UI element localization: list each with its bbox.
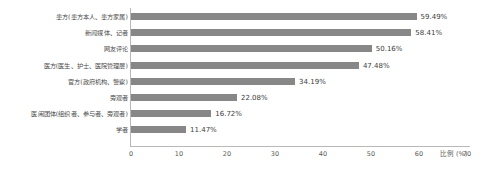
bar-track: 47.48%	[131, 58, 486, 74]
x-axis-line	[130, 146, 470, 147]
bar	[131, 110, 211, 117]
x-tick-label: 50	[367, 150, 375, 159]
bar	[131, 126, 186, 133]
chart-row: 医闹团体(组织者、参与者、旁观者)16.72%	[0, 106, 486, 122]
bar-track: 34.19%	[131, 74, 486, 90]
bar-track: 50.16%	[131, 41, 486, 57]
bar-track: 22.08%	[131, 90, 486, 106]
x-axis-label: 比例 (%)	[440, 150, 467, 159]
category-label: 新闻媒体、记者	[4, 25, 128, 41]
category-label: 医方(医生、护士、医院管理层)	[4, 58, 128, 74]
bar-value-label: 34.19%	[299, 74, 326, 90]
bar	[131, 45, 372, 52]
x-tick-label: 60	[415, 150, 423, 159]
bar-track: 16.72%	[131, 106, 486, 122]
chart-row: 学者11.47%	[0, 122, 486, 138]
bar	[131, 62, 359, 69]
chart-row: 患方(患方本人、患方家属)59.49%	[0, 9, 486, 25]
x-tick-label: 20	[223, 150, 231, 159]
bar-value-label: 59.49%	[421, 9, 448, 25]
bar-value-label: 50.16%	[376, 41, 403, 57]
bar-chart: 患方(患方本人、患方家属)59.49%新闻媒体、记者58.41%网友评论50.1…	[0, 0, 486, 173]
chart-row: 新闻媒体、记者58.41%	[0, 25, 486, 41]
bar	[131, 13, 417, 20]
bar-track: 58.41%	[131, 25, 486, 41]
bar	[131, 29, 411, 36]
category-label: 学者	[4, 122, 128, 138]
bar-track: 59.49%	[131, 9, 486, 25]
x-tick-label: 0	[129, 150, 133, 159]
bar-value-label: 16.72%	[215, 106, 242, 122]
bar	[131, 94, 237, 101]
chart-row: 医方(医生、护士、医院管理层)47.48%	[0, 58, 486, 74]
x-tick-label: 30	[271, 150, 279, 159]
bar-value-label: 11.47%	[190, 122, 217, 138]
bar-value-label: 47.48%	[363, 58, 390, 74]
x-tick-label: 10	[175, 150, 183, 159]
category-label: 官方(政府机构、警察)	[4, 74, 128, 90]
x-tick-label: 40	[319, 150, 327, 159]
chart-row: 网友评论50.16%	[0, 41, 486, 57]
category-label: 旁观者	[4, 90, 128, 106]
category-label: 医闹团体(组织者、参与者、旁观者)	[4, 106, 128, 122]
category-label: 患方(患方本人、患方家属)	[4, 9, 128, 25]
bar-value-label: 22.08%	[241, 90, 268, 106]
category-label: 网友评论	[4, 41, 128, 57]
chart-row: 旁观者22.08%	[0, 90, 486, 106]
bar	[131, 78, 295, 85]
bar-track: 11.47%	[131, 122, 486, 138]
bar-value-label: 58.41%	[415, 25, 442, 41]
chart-row: 官方(政府机构、警察)34.19%	[0, 74, 486, 90]
